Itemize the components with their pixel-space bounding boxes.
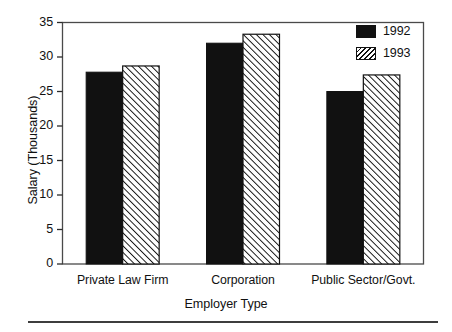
bar-1992-2 bbox=[207, 43, 244, 264]
bar-1992-1 bbox=[86, 72, 123, 264]
chart-legend: 1992 1993 bbox=[356, 22, 426, 66]
bar-1993-1 bbox=[123, 66, 159, 264]
bars-layer bbox=[86, 34, 400, 264]
legend-swatch-hatched-icon bbox=[356, 47, 376, 60]
category-label: Public Sector/Govt. bbox=[291, 273, 435, 287]
y-tick-label: 0 bbox=[0, 256, 53, 270]
footer-divider bbox=[28, 321, 438, 323]
legend-swatch-solid-icon bbox=[356, 25, 376, 38]
legend-label: 1993 bbox=[383, 47, 410, 60]
bar-chart-figure: 05101520253035 Private Law FirmCorporati… bbox=[0, 0, 452, 332]
bar-1993-2 bbox=[243, 34, 280, 264]
legend-label: 1992 bbox=[383, 25, 410, 38]
y-axis-title: Salary (Thousands) bbox=[26, 55, 40, 245]
legend-item-1993: 1993 bbox=[356, 44, 426, 63]
bar-1993-3 bbox=[363, 75, 400, 264]
legend-item-1992: 1992 bbox=[356, 22, 426, 41]
x-axis-title: Employer Type bbox=[0, 297, 452, 311]
y-tick-label: 35 bbox=[0, 15, 53, 29]
bar-1992-3 bbox=[327, 92, 364, 265]
y-axis-ticks bbox=[57, 23, 63, 265]
